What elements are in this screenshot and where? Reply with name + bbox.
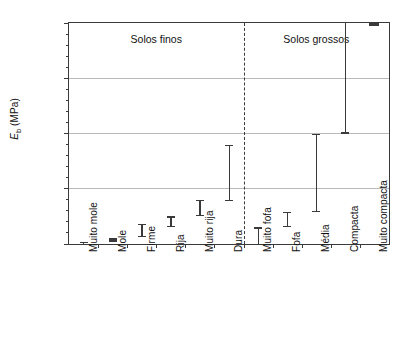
group-title: Solos grossos (283, 33, 349, 45)
range-bar-cap-bottom (341, 132, 349, 133)
y-axis-tick-minor (66, 56, 69, 57)
chart-figure: Eb (MPa) 050100150200Solos finosSolos gr… (0, 0, 401, 354)
range-bar-cap-top (254, 227, 262, 228)
range-bar-cap-top (225, 145, 233, 146)
range-bar-stem (199, 200, 200, 217)
y-axis-tick-minor (66, 111, 69, 112)
y-axis-tick-minor (66, 89, 69, 90)
range-bar-cap-bottom (283, 226, 291, 227)
x-axis-tick (360, 244, 361, 248)
x-axis-category-label: Muito mole (88, 202, 99, 252)
range-bar-stem (229, 145, 230, 201)
y-axis-title-subscript: b (14, 129, 23, 133)
range-bar-stem (287, 212, 288, 227)
x-axis-category-label: Fofa (291, 232, 302, 252)
range-bar-cap-bottom (167, 226, 175, 227)
x-axis-category-label: Rija (175, 234, 186, 252)
range-bar-cap-bottom (109, 240, 117, 241)
x-axis-category-label: Mole (117, 230, 128, 252)
group-divider (244, 23, 245, 244)
range-bar-cap-bottom (138, 236, 146, 237)
y-axis-tick-minor (66, 210, 69, 211)
range-bar-cap-top (80, 242, 88, 243)
range-bar-cap-bottom (196, 215, 204, 216)
range-bar-stem (258, 227, 259, 244)
range-bar-cap-top (283, 212, 291, 213)
y-axis-tick-major (64, 244, 69, 245)
y-axis-tick-minor (66, 100, 69, 101)
gridline (69, 78, 389, 79)
y-axis-tick-minor (66, 155, 69, 156)
range-bar-cap-bottom (225, 200, 233, 201)
y-axis-title-units: (MPa) (9, 98, 20, 129)
y-axis-tick-minor (66, 67, 69, 68)
range-bar-cap-top (312, 134, 320, 135)
y-axis-tick-minor (66, 45, 69, 46)
x-axis-category-label: Muito rija (204, 210, 215, 252)
range-bar-cap-top (196, 200, 204, 201)
x-axis-category-label: Compacta (349, 206, 360, 252)
y-axis-tick-minor (66, 144, 69, 145)
range-bar-stem (316, 134, 317, 212)
y-axis-tick-minor (66, 166, 69, 167)
range-bar-cap-top (369, 23, 379, 26)
y-axis-title: Eb (MPa) (9, 59, 23, 179)
x-axis-category-label: Dura (233, 230, 244, 252)
y-axis-tick-minor (66, 122, 69, 123)
y-axis-title-symbol: E (9, 133, 20, 140)
plot-area: 050100150200Solos finosSolos grossosMuit… (68, 22, 390, 245)
y-axis-tick-major (64, 23, 69, 24)
y-axis-tick-major (64, 78, 69, 79)
range-bar-cap-top (167, 216, 175, 217)
y-axis-tick-minor (66, 199, 69, 200)
x-axis-category-label: Média (320, 224, 331, 252)
x-axis-category-label: Firme (146, 226, 157, 252)
y-axis-tick-major (64, 188, 69, 189)
x-axis-category-label: Muito fofa (262, 207, 273, 252)
y-axis-tick-major (64, 133, 69, 134)
range-bar-cap-bottom (312, 211, 320, 212)
y-axis-tick-minor (66, 177, 69, 178)
range-bar-cap-top (138, 224, 146, 225)
range-bar-stem (345, 23, 346, 134)
x-axis-category-label: Muito compacta (378, 180, 389, 252)
y-axis-tick-minor (66, 221, 69, 222)
y-axis-tick-minor (66, 232, 69, 233)
group-title: Solos finos (131, 33, 182, 45)
y-axis-tick-minor (66, 34, 69, 35)
